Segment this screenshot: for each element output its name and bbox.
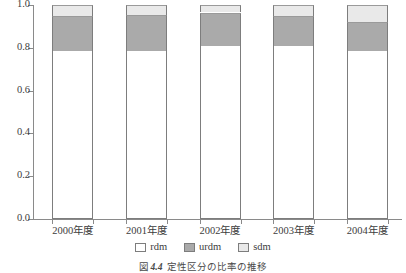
y-axis-line — [33, 5, 34, 220]
bar-segment-rdm[interactable] — [273, 46, 314, 219]
x-tick-mark — [126, 219, 127, 224]
bar-segment-rdm[interactable] — [200, 46, 241, 219]
bar-segment-urdm[interactable] — [126, 15, 167, 51]
bar-segment-sdm[interactable] — [273, 5, 314, 16]
x-tick-mark — [241, 219, 242, 224]
y-tick-label: 0.8 — [17, 41, 30, 53]
x-category-label: 2000年度 — [36, 225, 110, 237]
y-tick-label: 1.0 — [17, 0, 30, 10]
caption-number: 4.4 — [151, 262, 163, 272]
y-tick-label: 0.2 — [17, 169, 30, 181]
bar-segment-urdm[interactable] — [273, 16, 314, 46]
x-category-label: 2004年度 — [330, 225, 404, 237]
x-tick-mark — [388, 219, 389, 224]
bar-segment-urdm[interactable] — [200, 13, 241, 46]
x-category-label: 2003年度 — [257, 225, 331, 237]
figure-container: 1.00.80.60.40.20.0 2000年度2001年度2002年度200… — [0, 0, 406, 273]
y-tick-label: 0.0 — [17, 212, 30, 224]
y-tick-label: 0.6 — [17, 84, 30, 96]
legend-label: sdm — [253, 241, 271, 253]
bar-segment-sdm[interactable] — [126, 5, 167, 15]
stacked-bar[interactable] — [126, 5, 167, 219]
bar-segment-sdm[interactable] — [52, 5, 93, 16]
bar-segment-sdm[interactable] — [347, 5, 388, 22]
bar-segment-urdm[interactable] — [52, 16, 93, 51]
bar-segment-rdm[interactable] — [126, 51, 167, 219]
stacked-bar[interactable] — [200, 5, 241, 219]
x-category-label: 2002年度 — [183, 225, 257, 237]
x-tick-mark — [167, 219, 168, 224]
bar-segment-sdm[interactable] — [200, 5, 241, 12]
legend-item-urdm[interactable]: urdm — [184, 241, 221, 253]
x-tick-mark — [93, 219, 94, 224]
figure-caption: 図4.4定性区分の比率の推移 — [0, 261, 406, 273]
bar-segment-rdm[interactable] — [347, 51, 388, 219]
legend-swatch-icon — [184, 243, 195, 252]
stacked-bar[interactable] — [273, 5, 314, 219]
caption-prefix: 図 — [139, 262, 149, 272]
bar-segment-rdm[interactable] — [52, 51, 93, 219]
x-tick-mark — [273, 219, 274, 224]
legend-swatch-icon — [238, 243, 249, 252]
stacked-bar[interactable] — [347, 5, 388, 219]
x-tick-mark — [200, 219, 201, 224]
x-tick-mark — [314, 219, 315, 224]
x-tick-mark — [52, 219, 53, 224]
stacked-bar[interactable] — [52, 5, 93, 219]
chart-legend: rdmurdmsdm — [0, 241, 406, 253]
x-tick-mark — [347, 219, 348, 224]
legend-swatch-icon — [135, 243, 146, 252]
plot-area: 1.00.80.60.40.20.0 — [33, 5, 401, 219]
y-tick-label: 0.4 — [17, 126, 30, 138]
caption-text: 定性区分の比率の推移 — [167, 262, 267, 272]
legend-item-sdm[interactable]: sdm — [238, 241, 271, 253]
legend-label: rdm — [150, 241, 167, 253]
legend-item-rdm[interactable]: rdm — [135, 241, 167, 253]
legend-label: urdm — [199, 241, 221, 253]
bar-segment-urdm[interactable] — [347, 22, 388, 51]
x-category-label: 2001年度 — [110, 225, 184, 237]
